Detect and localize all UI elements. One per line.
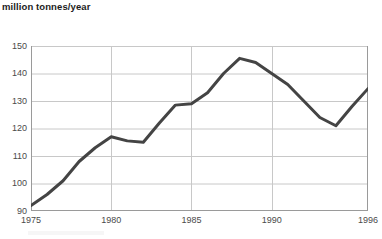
data-series-line xyxy=(31,58,368,205)
y-tick-label: 150 xyxy=(12,42,27,51)
x-tick-label: 1975 xyxy=(21,216,41,225)
y-tick-label: 140 xyxy=(12,69,27,78)
y-tick-label: 120 xyxy=(12,124,27,133)
plot-svg xyxy=(31,46,368,211)
x-tick-label: 1980 xyxy=(101,216,121,225)
x-axis-tick-labels: 19751980198519901996 xyxy=(0,216,382,230)
y-tick-label: 110 xyxy=(13,152,27,161)
line-chart-figure: million tonnes/year 90100110120130140150… xyxy=(0,0,382,239)
plot-area xyxy=(31,46,368,211)
y-tick-label: 100 xyxy=(12,179,27,188)
x-tick-label: 1985 xyxy=(181,216,201,225)
y-axis-tick-labels: 90100110120130140150 xyxy=(0,0,27,239)
scan-artifact xyxy=(28,231,104,235)
x-tick-label: 1990 xyxy=(262,216,282,225)
y-tick-label: 130 xyxy=(12,97,27,106)
x-tick-label: 1996 xyxy=(358,216,378,225)
